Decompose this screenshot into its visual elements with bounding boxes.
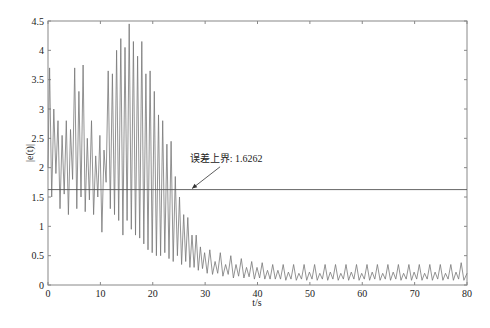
y-axis-label: |e(t)|: [24, 144, 36, 162]
x-tick-label: 0: [46, 288, 51, 299]
chart-canvas: 0102030405060708000.511.522.533.544.5 误差…: [0, 0, 490, 328]
y-tick-label: 2: [39, 162, 44, 173]
x-tick-label: 80: [462, 288, 472, 299]
x-tick-label: 20: [148, 288, 158, 299]
y-tick-label: 3.5: [32, 74, 45, 85]
y-tick-label: 2.5: [32, 133, 45, 144]
y-tick-label: 1: [39, 221, 44, 232]
y-tick-label: 0: [39, 280, 44, 291]
x-axis-label: t/s: [252, 297, 262, 308]
y-tick-label: 0.5: [32, 250, 45, 261]
x-tick-label: 50: [305, 288, 315, 299]
y-tick-label: 4.5: [32, 16, 45, 27]
annotation-text: 误差上界: 1.6262: [190, 152, 263, 164]
x-tick-label: 60: [357, 288, 367, 299]
y-tick-label: 3: [39, 104, 44, 115]
x-tick-label: 70: [410, 288, 420, 299]
y-tick-label: 1.5: [32, 192, 45, 203]
x-tick-label: 30: [200, 288, 210, 299]
y-tick-label: 4: [39, 45, 44, 56]
x-tick-label: 10: [95, 288, 105, 299]
